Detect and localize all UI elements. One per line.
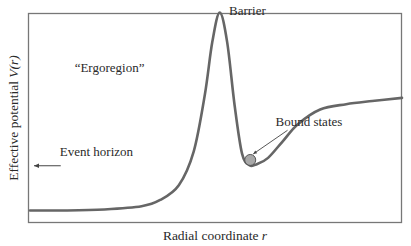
- potential-diagram: Barrier“Ergoregion”Bound statesEvent hor…: [0, 0, 411, 246]
- x-axis-label: Radial coordinate r: [163, 228, 268, 243]
- potential-curve: [30, 13, 402, 211]
- plot-frame: [29, 14, 402, 223]
- arrowhead-icon: [253, 150, 257, 153]
- y-axis-label: Effective potential V(r): [6, 55, 21, 181]
- arrowhead-icon: [34, 164, 39, 168]
- annotation-bound-states: Bound states: [276, 114, 343, 129]
- annotation-event-horizon: Event horizon: [60, 144, 134, 159]
- annotation-barrier: Barrier: [229, 3, 266, 18]
- bound-state-particle: [245, 154, 256, 165]
- annotation-ergoregion: “Ergoregion”: [75, 60, 145, 75]
